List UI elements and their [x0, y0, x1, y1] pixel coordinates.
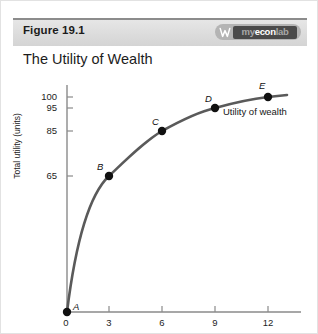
utility-of-wealth-curve: [67, 95, 287, 312]
data-point-a: [63, 308, 71, 316]
y-tick-label-100: 100: [31, 91, 57, 102]
y-tick-label-85: 85: [31, 125, 57, 136]
x-tick-label-3: 3: [99, 317, 119, 328]
x-tick-label-6: 6: [152, 317, 172, 328]
y-tick-label-65: 65: [31, 170, 57, 181]
figure-panel: Figure 19.1 The Utility of Wealth myecon…: [0, 0, 318, 334]
x-axis-ticks: [109, 306, 268, 312]
data-point-b: [105, 172, 113, 180]
data-point-d: [211, 104, 219, 112]
x-tick-label-9: 9: [205, 317, 225, 328]
point-label-a: A: [73, 301, 79, 312]
point-label-c: C: [152, 116, 159, 127]
x-tick-label-12: 12: [258, 317, 278, 328]
point-label-e: E: [259, 80, 265, 91]
point-label-b: B: [97, 161, 103, 172]
y-axis-title: Total utility (units): [12, 96, 22, 196]
data-point-c: [158, 127, 166, 135]
y-axis-ticks: [67, 97, 73, 176]
y-tick-label-95: 95: [31, 102, 57, 113]
chart-canvas: [1, 1, 318, 334]
point-label-d: D: [205, 93, 212, 104]
data-points: [63, 93, 272, 316]
chart-plot-area: Total utility (units) 100 95 85 65 0 3 6…: [1, 1, 318, 334]
curve-annotation-utility-of-wealth: Utility of wealth: [223, 106, 287, 117]
origin-label: 0: [56, 317, 76, 328]
data-point-e: [264, 93, 272, 101]
